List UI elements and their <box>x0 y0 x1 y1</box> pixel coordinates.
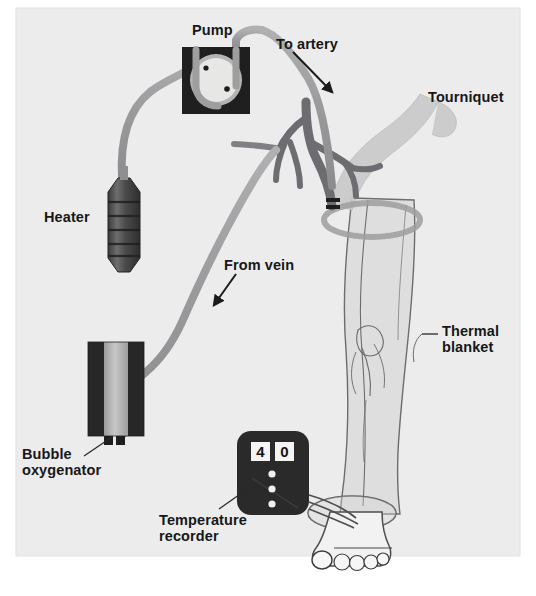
recorder-display-tens: 4 <box>250 441 271 462</box>
label-heater: Heater <box>44 209 90 225</box>
label-temperature-recorder: Temperature recorder <box>159 512 247 544</box>
label-tourniquet: Tourniquet <box>428 89 504 105</box>
label-to-artery: To artery <box>276 36 338 52</box>
pump-roller-dot-1 <box>203 65 208 70</box>
pump-roller-dot-2 <box>224 86 230 92</box>
label-pump: Pump <box>192 22 233 38</box>
recorder-indicator-1 <box>268 470 275 477</box>
label-from-vein: From vein <box>224 257 294 273</box>
roller-pump <box>182 47 250 114</box>
label-thermal-blanket: Thermal blanket <box>442 323 499 355</box>
recorder-indicator-3 <box>268 500 275 507</box>
bubble-oxygenator <box>88 342 144 445</box>
oxygenator-port-right <box>116 436 125 445</box>
recorder-display-units: 0 <box>274 441 295 462</box>
temperature-recorder[interactable] <box>237 431 309 515</box>
perfusion-diagram-figure: Pump To artery Tourniquet Heater From ve… <box>0 0 536 596</box>
label-bubble-oxygenator: Bubble oxygenator <box>22 446 101 478</box>
recorder-indicator-2 <box>268 485 275 492</box>
